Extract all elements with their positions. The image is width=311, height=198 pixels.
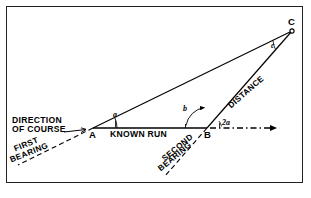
direction-of-course-label-line2: OF COURSE — [12, 125, 66, 134]
angle-b-arc — [186, 108, 205, 126]
vertex-label-c: C — [288, 17, 295, 27]
figure-canvas: A B C a b 2a c DIRECTION OF COURSE KNOWN… — [0, 0, 311, 198]
angle-label-c: c — [271, 42, 275, 50]
vertex-label-b: B — [204, 130, 211, 140]
direction-of-course-arrow — [64, 130, 86, 133]
angle-label-a: a — [113, 111, 117, 119]
figure-linework — [0, 0, 311, 198]
known-run-label: KNOWN RUN — [110, 130, 167, 139]
vertex-c-marker — [290, 29, 294, 33]
side-bc-distance — [207, 31, 292, 128]
angle-label-2a: 2a — [222, 119, 230, 127]
vertex-label-a: A — [89, 130, 96, 140]
angle-label-b: b — [183, 105, 187, 113]
